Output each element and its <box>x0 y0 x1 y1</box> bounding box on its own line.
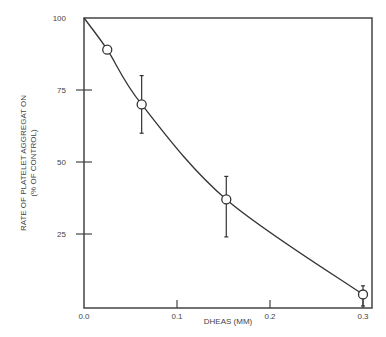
fit-curve <box>84 18 363 294</box>
x-tick-label: 0.3 <box>357 312 369 321</box>
data-point-marker <box>137 100 146 109</box>
data-point-marker <box>359 290 368 299</box>
plot-border <box>84 18 372 308</box>
y-axis-title-line1: RATE OF PLATELET AGGREGAT ON <box>19 95 28 231</box>
x-tick-label: 0.1 <box>171 312 183 321</box>
data-series <box>84 18 368 306</box>
y-axis-title-line2: (% OF CONTROL) <box>29 129 38 196</box>
data-point-marker <box>222 195 231 204</box>
plot-frame <box>84 18 372 308</box>
x-tick-label: 0.0 <box>78 312 90 321</box>
y-tick-label: 50 <box>57 158 66 167</box>
y-tick-label: 75 <box>57 86 66 95</box>
y-axis: 255075100 <box>53 14 92 239</box>
y-tick-label: 100 <box>53 14 67 23</box>
y-tick-label: 25 <box>57 230 66 239</box>
x-tick-label: 0.2 <box>264 312 276 321</box>
chart: 0.00.10.20.3 255075100 DHEAS (MM) RATE O… <box>0 0 386 337</box>
x-axis-title: DHEAS (MM) <box>204 317 253 326</box>
data-point-marker <box>103 45 112 54</box>
